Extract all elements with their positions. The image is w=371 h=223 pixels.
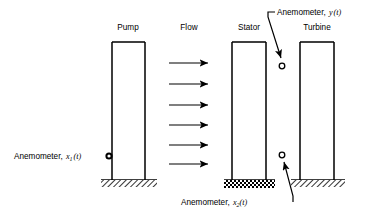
stator-component: Stator <box>224 23 275 188</box>
sensor-x1[interactable]: Anemometer, x1(t) <box>14 152 112 162</box>
stator-isolator-pad <box>224 180 275 188</box>
sensor-y-marker[interactable] <box>279 63 285 69</box>
flow-label: Flow <box>180 23 197 32</box>
sensor-x1-marker[interactable] <box>106 153 111 158</box>
pump-label: Pump <box>117 23 139 32</box>
flow-arrows <box>169 63 208 164</box>
sensor-y[interactable]: Anemometer, y(t) <box>268 8 342 69</box>
sensor-y-label-text: Anemometer, <box>277 8 328 17</box>
sensor-x1-label-text: Anemometer, <box>14 152 65 161</box>
sensor-y-label: Anemometer, y(t) <box>277 8 342 17</box>
stator-column <box>232 42 266 180</box>
diagram-canvas: Pump Flow Stator Turbine Anemometer, x1( <box>0 0 371 223</box>
flow-region: Flow <box>169 23 208 164</box>
pump-column <box>112 42 145 180</box>
turbine-ground-hatch <box>291 180 345 187</box>
pump-component: Pump <box>101 23 157 187</box>
turbine-label: Turbine <box>303 23 331 32</box>
sensor-y-arg: (t) <box>334 8 342 17</box>
sensor-x2-label-text: Anemometer, <box>181 198 232 207</box>
sensor-x1-label: Anemometer, x1(t) <box>14 152 82 162</box>
sensor-x1-arg: (t) <box>74 152 82 161</box>
sensor-x1-subscript: 1 <box>70 156 73 162</box>
sensor-x2-label: Anemometer, x2(t) <box>181 198 248 208</box>
sensor-x2-arg: (t) <box>240 198 248 207</box>
sensor-y-symbol: y <box>328 8 333 17</box>
stator-label: Stator <box>238 23 260 32</box>
sensor-x2-marker[interactable] <box>279 152 285 158</box>
schematic-svg: Pump Flow Stator Turbine Anemometer, x1( <box>0 0 371 223</box>
turbine-column <box>300 42 334 180</box>
turbine-component: Turbine <box>291 23 345 187</box>
sensor-y-leader-line <box>268 12 281 58</box>
pump-ground-hatch <box>101 180 157 187</box>
